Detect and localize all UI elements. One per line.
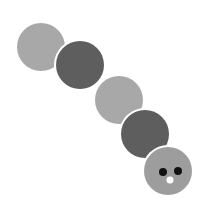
caterpillar-illustration [0, 0, 210, 209]
left-eye-icon [159, 168, 167, 176]
segment-circle [56, 41, 104, 89]
segment-4-head-segment [142, 145, 194, 197]
nose-icon [167, 177, 174, 184]
segment-circle [144, 147, 192, 195]
right-eye-icon [174, 167, 182, 175]
segment-1-body-segment [54, 39, 106, 91]
figure-canvas [0, 0, 210, 209]
